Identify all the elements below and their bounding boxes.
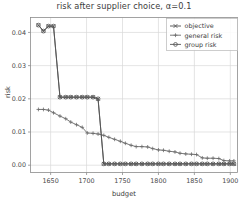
x-tick-label: 1850 <box>186 177 202 185</box>
series-line <box>38 109 234 160</box>
y-tick-label: 0.02 <box>12 95 26 103</box>
axis-ticks: 1650170017501800185019000.000.010.020.03… <box>12 29 239 185</box>
legend-label-1: general risk <box>185 32 223 40</box>
plot-canvas: 1650170017501800185019000.000.010.020.03… <box>0 0 248 204</box>
legend-label-0: objective <box>185 22 214 30</box>
x-tick-label: 1900 <box>222 177 238 185</box>
x-axis-label: budget <box>0 190 248 198</box>
legend-label-2: group risk <box>185 41 217 49</box>
x-tick-label: 1650 <box>42 177 58 185</box>
y-tick-label: 0.03 <box>12 62 26 70</box>
x-tick-label: 1750 <box>114 177 130 185</box>
y-tick-label: 0.04 <box>12 29 26 37</box>
y-axis-label: risk <box>4 77 12 107</box>
series-general-risk <box>37 108 236 163</box>
y-tick-label: 0.01 <box>12 128 26 136</box>
y-tick-label: 0.00 <box>12 161 26 169</box>
x-tick-label: 1800 <box>150 177 166 185</box>
legend: objectivegeneral riskgroup risk <box>167 19 238 51</box>
x-tick-label: 1700 <box>78 177 94 185</box>
chart-figure: risk after supplier choice, α=0.1 165017… <box>0 0 248 204</box>
